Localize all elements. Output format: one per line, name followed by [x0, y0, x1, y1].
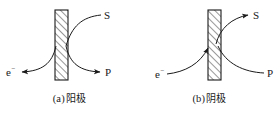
label-electron-charge: −	[12, 65, 16, 73]
figure-root: S P e − (a)阳极	[0, 0, 279, 114]
diagram-panel-b: S P e − (b)阴极	[140, 0, 279, 114]
label-electron: e	[155, 68, 160, 80]
label-electron: e	[6, 66, 11, 78]
label-p: P	[267, 67, 273, 79]
panel-a-drawing: S P e −	[0, 0, 139, 92]
panel-b-drawing: S P e −	[140, 0, 279, 92]
electrode-plate	[208, 10, 221, 80]
arrow-from-p	[218, 46, 264, 73]
label-s: S	[253, 9, 259, 21]
label-s: S	[104, 9, 110, 21]
panel-a-caption-index: (a)	[53, 93, 65, 104]
panel-b-caption-text: 阴极	[205, 93, 226, 104]
label-p: P	[105, 66, 111, 78]
arrow-to-electron	[22, 46, 56, 72]
arrow-from-electron	[167, 48, 208, 74]
panel-b-caption-index: (b)	[192, 93, 205, 104]
panel-a-caption: (a)阳极	[0, 92, 139, 106]
label-electron-charge: −	[161, 67, 165, 75]
panel-b-caption: (b)阴极	[140, 92, 279, 106]
arrow-to-p	[66, 46, 100, 72]
panel-a-caption-text: 阳极	[65, 93, 86, 104]
arrow-to-s	[66, 15, 101, 46]
diagram-panel-a: S P e − (a)阳极	[0, 0, 139, 114]
